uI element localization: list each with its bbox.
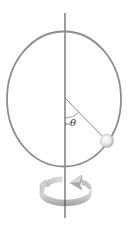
- bead: [101, 135, 114, 148]
- theta-label: θ: [70, 118, 76, 128]
- diagram-canvas: [0, 0, 127, 229]
